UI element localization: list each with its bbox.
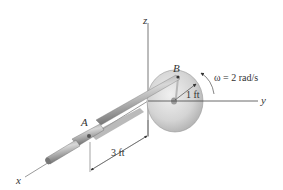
- omega-arrow: [201, 73, 214, 94]
- diagram-figure: [0, 0, 283, 190]
- shaft: [46, 140, 80, 164]
- point-b-marker: [176, 75, 179, 78]
- pin-a: [87, 134, 91, 138]
- radius-label: 1 ft: [186, 90, 200, 100]
- length-label: 3 ft: [111, 148, 125, 158]
- diagram-canvas: z y x B A ω = 2 rad/s 1 ft 3 ft: [0, 0, 283, 190]
- x-axis-label: x: [16, 175, 21, 186]
- z-axis-label: z: [143, 15, 147, 26]
- point-b-label: B: [173, 63, 180, 74]
- point-a-label: A: [81, 117, 88, 128]
- y-axis-label: y: [261, 95, 266, 106]
- omega-label: ω = 2 rad/s: [214, 73, 258, 83]
